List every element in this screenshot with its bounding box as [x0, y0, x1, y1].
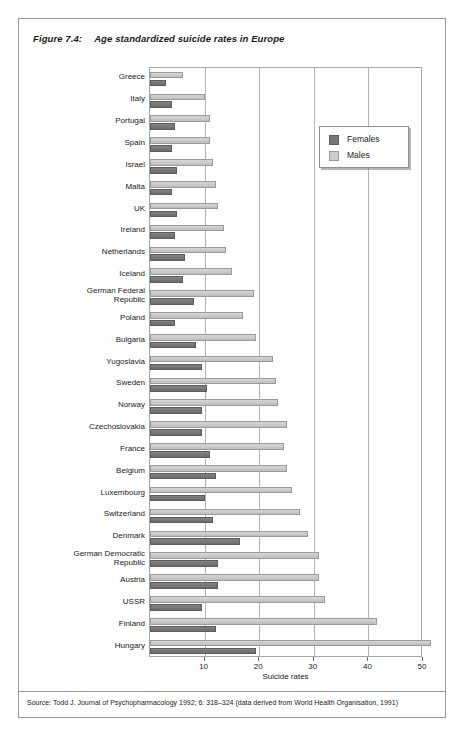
bar-females: [150, 80, 166, 87]
bar-males: [150, 640, 431, 647]
bar-males: [150, 443, 284, 450]
y-axis-label: Austria: [23, 575, 145, 584]
bar-row: [150, 592, 421, 614]
bar-females: [150, 276, 183, 283]
bar-row: [150, 396, 421, 418]
bar-females: [150, 495, 205, 502]
y-axis-label: Italy: [23, 94, 145, 103]
x-axis-tick-label: 30: [298, 662, 328, 671]
bar-males: [150, 378, 276, 385]
legend-swatch-females-icon: [329, 135, 339, 145]
y-axis-label: German Democratic Republic: [23, 549, 145, 567]
bar-females: [150, 538, 240, 545]
bar-males: [150, 487, 292, 494]
source-note: Source: Todd J. Journal of Psychopharmac…: [27, 698, 439, 707]
bar-row: [150, 287, 421, 309]
bar-females: [150, 582, 218, 589]
x-axis-tick-30: [313, 657, 314, 661]
bar-row: [150, 68, 421, 90]
bar-females: [150, 254, 185, 261]
bar-males: [150, 356, 273, 363]
x-axis-tick-50: [422, 657, 423, 661]
x-axis-tick-label: 20: [243, 662, 273, 671]
chart-plot-area: GreeceItalyPortugalSpainIsraelMaltaUKIre…: [19, 65, 445, 685]
x-axis-tick-20: [258, 657, 259, 661]
y-axis-label: Greece: [23, 72, 145, 81]
y-axis-label: Finland: [23, 619, 145, 628]
y-axis-label: Poland: [23, 313, 145, 322]
x-axis-title: Suicide rates: [149, 672, 422, 681]
bar-row: [150, 221, 421, 243]
x-axis-tick-label: 10: [189, 662, 219, 671]
bar-row: [150, 527, 421, 549]
y-axis-label: Luxembourg: [23, 488, 145, 497]
bar-females: [150, 648, 256, 655]
chart-legend: Females Males: [319, 126, 409, 168]
figure-title-text: Age standardized suicide rates in Europe: [94, 33, 284, 44]
y-axis-label: Belgium: [23, 466, 145, 475]
bar-row: [150, 374, 421, 396]
bar-males: [150, 312, 243, 319]
bar-males: [150, 115, 210, 122]
bar-males: [150, 574, 319, 581]
bar-males: [150, 203, 218, 210]
bar-males: [150, 509, 300, 516]
bar-row: [150, 265, 421, 287]
bar-females: [150, 167, 177, 174]
bar-males: [150, 334, 256, 341]
bar-row: [150, 308, 421, 330]
legend-label-males: Males: [347, 150, 370, 160]
bar-males: [150, 465, 287, 472]
y-axis-label: UK: [23, 204, 145, 213]
bar-males: [150, 399, 278, 406]
y-axis-label: Spain: [23, 138, 145, 147]
bar-row: [150, 177, 421, 199]
bar-females: [150, 298, 194, 305]
bar-females: [150, 385, 207, 392]
bar-males: [150, 225, 224, 232]
bar-row: [150, 243, 421, 265]
y-axis-label: Ireland: [23, 225, 145, 234]
bar-row: [150, 461, 421, 483]
bar-row: [150, 439, 421, 461]
bar-females: [150, 626, 216, 633]
bar-row: [150, 418, 421, 440]
y-axis-label: Switzerland: [23, 509, 145, 518]
bar-females: [150, 364, 202, 371]
x-axis-tick-label: 50: [407, 662, 437, 671]
bar-females: [150, 189, 172, 196]
bar-row: [150, 199, 421, 221]
y-axis-label: Sweden: [23, 378, 145, 387]
bar-row: [150, 549, 421, 571]
figure-title: Figure 7.4:Age standardized suicide rate…: [33, 33, 285, 44]
bar-females: [150, 232, 175, 239]
bar-females: [150, 407, 202, 414]
bar-females: [150, 211, 177, 218]
bar-females: [150, 560, 218, 567]
bar-males: [150, 552, 319, 559]
y-axis-labels: GreeceItalyPortugalSpainIsraelMaltaUKIre…: [19, 67, 145, 657]
bar-row: [150, 505, 421, 527]
y-axis-label: Czechoslovakia: [23, 422, 145, 431]
bar-males: [150, 181, 216, 188]
bar-females: [150, 429, 202, 436]
bar-females: [150, 145, 172, 152]
bar-row: [150, 330, 421, 352]
bar-males: [150, 94, 205, 101]
x-axis-tick-label: 40: [352, 662, 382, 671]
y-axis-label: German Federal Republic: [23, 286, 145, 304]
bar-females: [150, 342, 196, 349]
bar-row: [150, 571, 421, 593]
bar-row: [150, 352, 421, 374]
bar-males: [150, 159, 213, 166]
y-axis-label: Israel: [23, 160, 145, 169]
bar-females: [150, 320, 175, 327]
bar-row: [150, 483, 421, 505]
y-axis-label: France: [23, 444, 145, 453]
y-axis-label: USSR: [23, 597, 145, 606]
y-axis-label: Malta: [23, 182, 145, 191]
bar-males: [150, 268, 232, 275]
y-axis-label: Bulgaria: [23, 335, 145, 344]
bar-males: [150, 290, 254, 297]
bar-males: [150, 137, 210, 144]
